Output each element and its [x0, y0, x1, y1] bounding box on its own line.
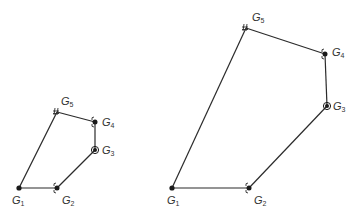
node-g3: G3: [91, 144, 114, 157]
edge-g4-g5: [57, 112, 95, 122]
large-polygon: G1G2G3G4G5: [167, 11, 346, 207]
edge-g2-g3: [57, 150, 95, 188]
edge-g5-g1: [19, 112, 57, 188]
dot-icon: [169, 185, 174, 190]
dot-icon: [247, 186, 252, 191]
node-g2: G2: [54, 183, 75, 207]
node-g3: G3: [323, 100, 345, 113]
node-label: G5: [61, 95, 74, 108]
diagram-canvas: G1G2G3G4G5G1G2G3G4G5: [0, 0, 363, 218]
hash-icon: [242, 24, 248, 31]
dot-icon: [16, 185, 21, 190]
node-label: G2: [62, 194, 75, 207]
node-label: G5: [252, 11, 265, 24]
dot-icon: [325, 104, 329, 108]
dot-icon: [55, 186, 60, 191]
dot-icon: [93, 120, 98, 125]
node-label: G4: [332, 46, 345, 59]
node-g5: G5: [53, 95, 74, 115]
node-g1: G1: [167, 185, 180, 207]
edge-g2-g3: [249, 106, 327, 188]
dot-icon: [93, 148, 97, 152]
node-label: G4: [102, 116, 115, 129]
node-label: G1: [12, 194, 25, 207]
dot-icon: [323, 52, 328, 57]
edge-g5-g1: [172, 28, 246, 188]
edge-g3-g4: [325, 54, 327, 106]
node-label: G2: [254, 194, 267, 207]
node-label: G1: [167, 194, 180, 207]
node-label: G3: [333, 100, 346, 113]
edge-g4-g5: [246, 28, 325, 54]
node-g1: G1: [12, 185, 25, 207]
node-g2: G2: [246, 183, 267, 207]
hash-icon: [53, 108, 59, 115]
small-polygon: G1G2G3G4G5: [12, 95, 115, 207]
node-label: G3: [102, 144, 115, 157]
